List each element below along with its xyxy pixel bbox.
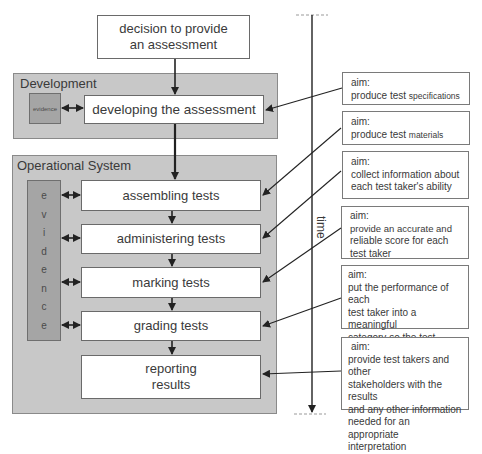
aim-line: interpretation [348,441,462,454]
aim-pointer-arrows [263,88,342,374]
evidence-arrows [62,108,83,325]
time-axis [294,15,328,414]
flow-arrows [172,59,175,354]
